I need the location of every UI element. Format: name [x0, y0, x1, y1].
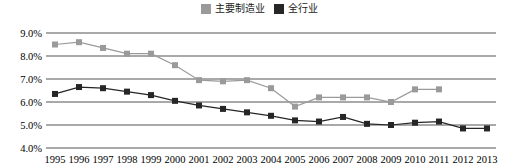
x-axis-tick-label: 2000	[165, 154, 186, 165]
x-axis-tick-label: 1995	[45, 154, 66, 165]
data-point-marker	[244, 77, 250, 83]
series-line	[55, 87, 487, 128]
data-point-marker	[100, 85, 106, 91]
x-axis-tick-label: 2004	[261, 154, 283, 165]
data-point-marker	[172, 98, 178, 104]
data-point-marker	[388, 99, 394, 105]
data-point-marker	[124, 89, 130, 95]
y-axis-tick-label: 8.0%	[20, 51, 42, 62]
x-axis-tick-label: 2006	[309, 154, 330, 165]
data-point-marker	[268, 113, 274, 119]
data-point-marker	[244, 109, 250, 115]
x-axis-tick-label: 1999	[141, 154, 162, 165]
y-axis-tick-label: 7.0%	[20, 74, 42, 85]
data-point-marker	[292, 117, 298, 123]
data-series-group	[52, 39, 490, 131]
x-axis-tick-label: 1997	[93, 154, 114, 165]
data-point-marker	[316, 119, 322, 125]
x-axis-tick-label: 2013	[477, 154, 498, 165]
x-axis-tick-label: 2003	[237, 154, 258, 165]
data-point-marker	[364, 94, 370, 100]
data-point-marker	[52, 42, 58, 48]
data-point-marker	[268, 85, 274, 91]
data-point-marker	[460, 125, 466, 131]
data-point-marker	[340, 94, 346, 100]
data-point-marker	[316, 94, 322, 100]
series-line	[55, 42, 439, 106]
data-point-marker	[412, 86, 418, 92]
data-point-marker	[52, 91, 58, 97]
x-axis-tick-label: 2001	[189, 154, 210, 165]
data-point-marker	[436, 86, 442, 92]
y-axis-tick-labels: 9.0%8.0%7.0%6.0%5.0%4.0%	[20, 28, 42, 154]
data-point-marker	[220, 78, 226, 84]
x-axis-tick-label: 2002	[213, 154, 234, 165]
data-point-marker	[388, 122, 394, 128]
y-axis-tick-label: 5.0%	[20, 120, 42, 131]
y-axis-tick-label: 6.0%	[20, 97, 42, 108]
data-point-marker	[100, 45, 106, 51]
x-axis-tick-label: 2007	[333, 154, 354, 165]
y-axis-tick-label: 9.0%	[20, 28, 42, 39]
data-point-marker	[220, 106, 226, 112]
x-axis-tick-label: 2005	[285, 154, 306, 165]
x-axis-tick-label: 2008	[357, 154, 378, 165]
x-axis-tick-label: 2012	[453, 154, 474, 165]
data-point-marker	[124, 51, 130, 57]
x-axis-tick-label: 1996	[69, 154, 90, 165]
x-axis-tick-label: 2009	[381, 154, 402, 165]
data-point-marker	[340, 114, 346, 120]
data-point-marker	[364, 121, 370, 127]
plot-area: 9.0%8.0%7.0%6.0%5.0%4.0% 199519961997199…	[0, 0, 518, 167]
x-axis-tick-label: 2010	[405, 154, 426, 165]
x-axis-tick-label: 2011	[429, 154, 450, 165]
y-axis-tick-label: 4.0%	[20, 143, 42, 154]
data-point-marker	[412, 120, 418, 126]
data-point-marker	[76, 39, 82, 45]
chart-container: 主要制造业 全行业 9.0%8.0%7.0%6.0%5.0%4.0% 19951…	[0, 0, 518, 167]
x-axis-tick-labels: 1995199619971998199920002001200220032004…	[45, 154, 498, 165]
data-point-marker	[484, 125, 490, 131]
x-axis-tick-label: 1998	[117, 154, 138, 165]
data-point-marker	[196, 77, 202, 83]
data-point-marker	[196, 102, 202, 108]
data-point-marker	[172, 62, 178, 68]
data-point-marker	[148, 92, 154, 98]
chart-svg: 9.0%8.0%7.0%6.0%5.0%4.0% 199519961997199…	[0, 0, 518, 167]
data-point-marker	[148, 51, 154, 57]
data-point-marker	[76, 84, 82, 90]
data-point-marker	[292, 104, 298, 110]
data-point-marker	[436, 119, 442, 125]
